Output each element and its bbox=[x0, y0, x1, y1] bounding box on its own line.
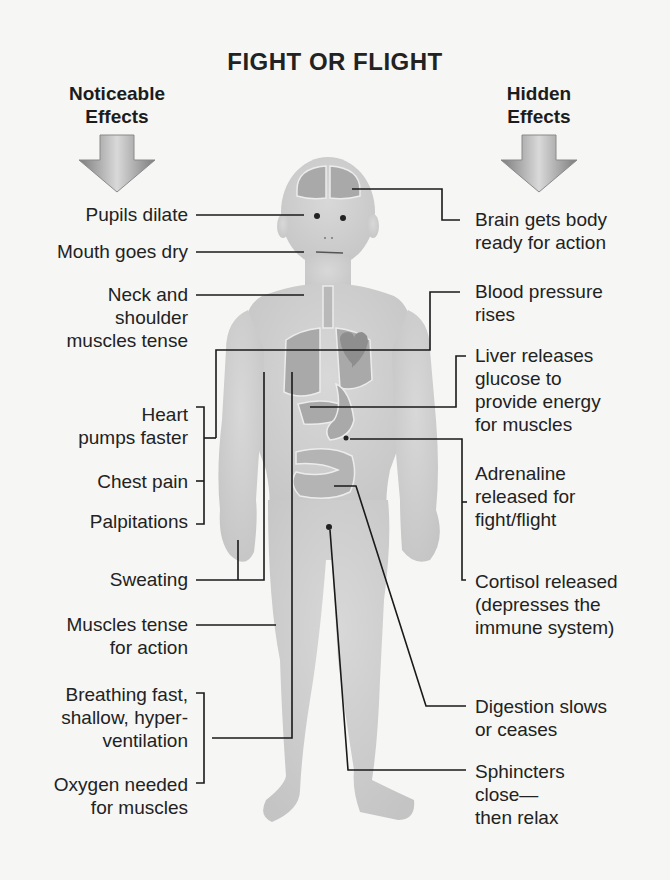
label-oxygen-needed: Oxygen needed for muscles bbox=[54, 773, 188, 819]
sphincter-dot bbox=[326, 524, 332, 530]
adrenal-gland-dot bbox=[344, 436, 349, 441]
bracket-heart-group bbox=[196, 407, 204, 524]
label-brain-gets-body-ready: Brain gets body ready for action bbox=[475, 208, 607, 254]
label-muscles-tense-for-action: Muscles tense for action bbox=[67, 613, 188, 659]
label-neck-shoulder-muscles: Neck and shoulder muscles tense bbox=[67, 283, 188, 352]
label-adrenaline-released: Adrenaline released for fight/flight bbox=[475, 462, 575, 531]
left-lung bbox=[284, 328, 320, 396]
label-blood-pressure-rises: Blood pressure rises bbox=[475, 280, 603, 326]
left-down-arrow-icon bbox=[79, 135, 155, 192]
label-sweating: Sweating bbox=[110, 568, 188, 591]
label-palpitations: Palpitations bbox=[90, 510, 188, 533]
label-digestion-slows: Digestion slows or ceases bbox=[475, 695, 607, 741]
right-down-arrow-icon bbox=[501, 135, 577, 192]
label-chest-pain: Chest pain bbox=[97, 470, 188, 493]
intestines bbox=[293, 449, 355, 498]
label-cortisol-released: Cortisol released (depresses the immune … bbox=[475, 570, 618, 639]
label-liver-releases-glucose: Liver releases glucose to provide energy… bbox=[475, 344, 601, 436]
trachea bbox=[323, 286, 333, 328]
left-pupil bbox=[314, 213, 320, 219]
label-mouth-goes-dry: Mouth goes dry bbox=[57, 240, 188, 263]
label-breathing-fast: Breathing fast, shallow, hyper- ventilat… bbox=[61, 683, 188, 752]
right-pupil bbox=[340, 215, 346, 221]
bracket-breathing-group bbox=[196, 693, 204, 783]
label-heart-pumps-faster: Heart pumps faster bbox=[78, 403, 188, 449]
label-sphincters-close: Sphincters close— then relax bbox=[475, 760, 565, 829]
label-pupils-dilate: Pupils dilate bbox=[86, 203, 188, 226]
mouth bbox=[316, 252, 343, 253]
